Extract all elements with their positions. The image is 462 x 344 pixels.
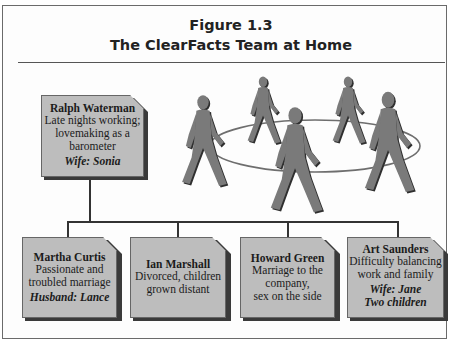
member-name: Martha Curtis [23,251,116,263]
member-desc: sex on the side [241,290,334,303]
walking-people-circle-icon [180,66,445,216]
member-box-howard: Howard Green Marriage to the company, se… [240,237,335,318]
member-spouse: Wife: Jane [348,283,443,296]
member-box-ralph: Ralph Waterman Late nights working; love… [41,95,144,177]
member-desc: barometer [42,140,143,153]
figure-title: The ClearFacts Team at Home [0,37,462,53]
connector-drop-2 [177,221,179,237]
member-name: Ralph Waterman [42,102,143,114]
member-desc: Difficulty balancing [348,255,443,268]
member-desc: Divorced, children [131,270,225,283]
member-desc: work and family [348,268,443,281]
member-desc: Passionate and [23,263,116,276]
member-name: Art Saunders [348,243,443,255]
figure-number: Figure 1.3 [0,17,462,33]
member-spouse: Wife: Sonia [42,155,143,168]
member-desc: troubled marriage [23,276,116,289]
title-divider [18,62,445,63]
member-name: Howard Green [241,252,334,264]
connector-drop-1 [67,221,69,237]
member-box-ian: Ian Marshall Divorced, children grown di… [130,237,226,318]
connector-drop-3 [287,221,289,237]
member-desc: Marriage to the [241,264,334,277]
member-desc: grown distant [131,283,225,296]
member-desc: Late nights working; [42,114,143,127]
member-spouse: Two children [348,296,443,309]
member-desc: lovemaking as a [42,127,143,140]
connector-horizontal [67,221,398,223]
connector-drop-4 [397,221,399,237]
member-box-martha: Martha Curtis Passionate and troubled ma… [22,237,117,318]
connector-top [89,178,91,222]
member-box-art: Art Saunders Difficulty balancing work a… [347,237,444,318]
member-name: Ian Marshall [131,258,225,270]
member-desc: company, [241,277,334,290]
member-spouse: Husband: Lance [23,291,116,304]
